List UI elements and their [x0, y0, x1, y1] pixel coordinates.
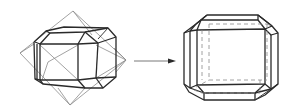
left-figure [20, 11, 126, 105]
crystal-transformation-diagram [0, 0, 297, 110]
truncated-polyhedron [34, 27, 116, 88]
octahedron-outline [20, 11, 126, 105]
transform-arrow [134, 59, 176, 64]
right-figure [184, 15, 278, 100]
hidden-edges [194, 24, 272, 93]
arrowhead-icon [168, 59, 176, 64]
diagram-description: Crystal habit transformation: a truncate… [0, 0, 67, 1]
